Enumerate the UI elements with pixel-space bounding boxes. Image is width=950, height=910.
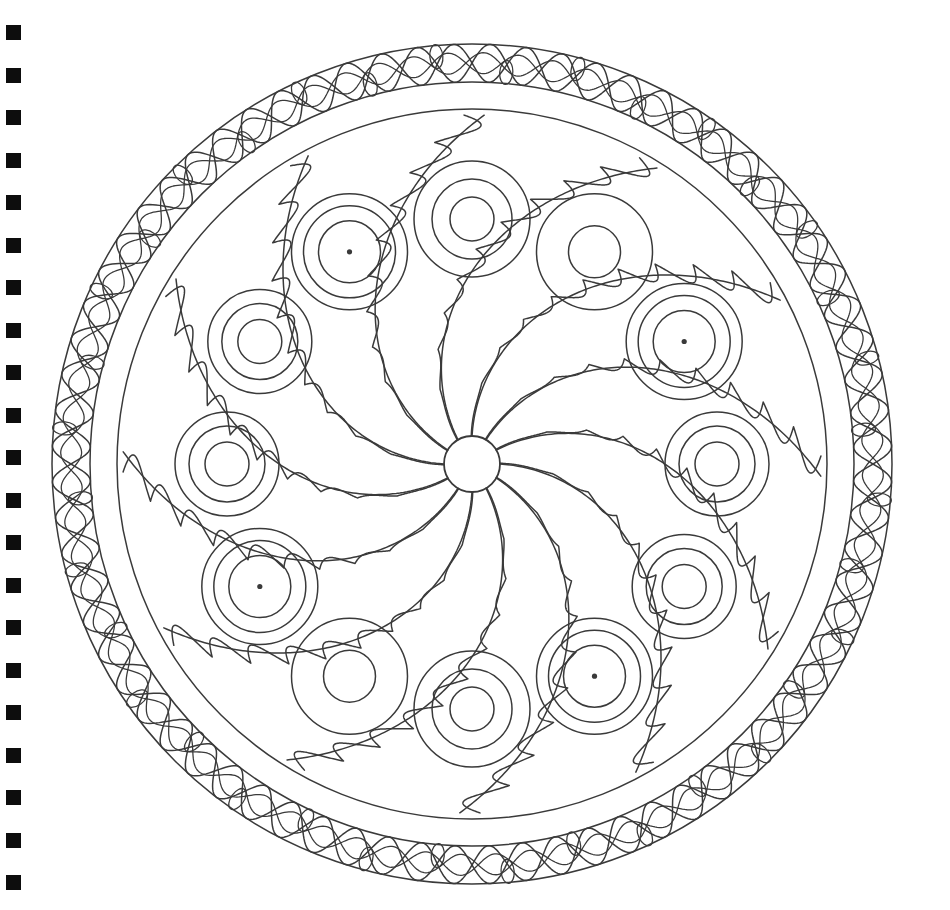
spiral-arm-scalloped-edge xyxy=(272,164,444,465)
spiral-arm-rib xyxy=(441,168,657,440)
motif-ring xyxy=(189,426,265,502)
mandala-artwork xyxy=(0,0,950,910)
circle-motif xyxy=(665,412,769,516)
spiral-arm-rib xyxy=(123,452,458,561)
motif-center-dot xyxy=(257,584,262,589)
circle-motif xyxy=(292,618,408,734)
coloring-book-page xyxy=(0,0,950,910)
circle-motif xyxy=(537,194,653,310)
motif-center-dot xyxy=(682,339,687,344)
border-boundary-circles xyxy=(52,44,892,884)
concentric-circle-motifs-group xyxy=(175,161,769,767)
spiral-arm-rib xyxy=(500,464,661,772)
celtic-braid-border xyxy=(52,44,892,884)
motif-outer-ring xyxy=(208,290,312,394)
circle-motif xyxy=(175,412,279,516)
motif-ring xyxy=(432,669,512,749)
motif-ring xyxy=(205,442,249,486)
spiral-arm-rib xyxy=(460,478,569,813)
spiral-arms-group xyxy=(123,115,821,813)
motif-center-dot xyxy=(347,249,352,254)
motif-ring xyxy=(646,549,722,625)
circle-motif xyxy=(208,290,312,394)
circle-motif xyxy=(632,535,736,639)
spiral-arm-scalloped-edge xyxy=(500,463,672,764)
center-hub-circle xyxy=(444,436,500,492)
motif-ring xyxy=(695,442,739,486)
field-boundary-circle xyxy=(117,109,827,819)
motif-outer-ring xyxy=(175,412,279,516)
motif-ring xyxy=(432,179,512,259)
center-hub-group xyxy=(444,436,500,492)
spiral-arm-scalloped-edge xyxy=(438,158,650,440)
motif-ring xyxy=(569,226,621,278)
motif-outer-ring xyxy=(537,194,653,310)
circle-motif xyxy=(414,161,530,277)
braid-strand xyxy=(52,44,891,883)
circle-motif xyxy=(414,651,530,767)
motif-ring xyxy=(450,687,494,731)
spiral-arm-rib xyxy=(287,488,503,760)
motif-outer-ring xyxy=(292,618,408,734)
spiral-arm-scalloped-edge xyxy=(471,264,772,436)
spiral-arm-rib xyxy=(283,156,444,464)
motif-ring xyxy=(662,565,706,609)
spiral-arm-scalloped-edge xyxy=(294,488,506,770)
motif-ring xyxy=(222,304,298,380)
motif-outer-ring xyxy=(632,535,736,639)
motif-ring xyxy=(679,426,755,502)
spiral-arm-rib xyxy=(472,275,780,436)
spiral-arm-scalloped-edge xyxy=(172,492,473,664)
outer-border-circle xyxy=(52,44,892,884)
motif-center-dot xyxy=(592,674,597,679)
braid-strand-inner xyxy=(61,53,883,875)
spiral-arm-rib xyxy=(375,115,484,450)
spiral-arm-rib xyxy=(164,492,472,653)
spiral-arm-rib xyxy=(486,367,821,476)
motif-ring xyxy=(324,650,376,702)
braid-strand xyxy=(52,44,891,883)
motif-ring xyxy=(238,320,282,364)
motif-ring xyxy=(450,197,494,241)
motif-outer-ring xyxy=(665,412,769,516)
